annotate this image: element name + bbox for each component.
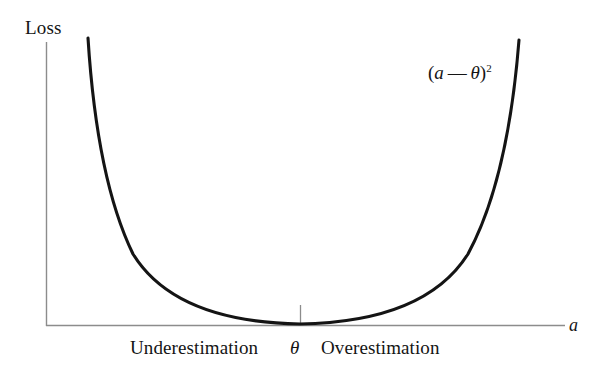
formula-variable-a: a bbox=[434, 62, 444, 83]
x-axis-label: a bbox=[569, 316, 578, 334]
y-axis-label: Loss bbox=[25, 18, 62, 37]
theta-axis-tick-label: θ bbox=[290, 338, 299, 357]
underestimation-region-label: Underestimation bbox=[130, 338, 258, 357]
formula-variable-theta: θ bbox=[470, 62, 479, 83]
curve-formula-annotation: (a — θ)2 bbox=[428, 63, 492, 82]
plot-area bbox=[0, 0, 596, 373]
formula-minus-sign: — bbox=[448, 62, 467, 83]
loss-function-figure: Loss (a — θ)2 a Underestimation θ Overes… bbox=[0, 0, 596, 373]
overestimation-region-label: Overestimation bbox=[321, 338, 440, 357]
formula-exponent: 2 bbox=[486, 62, 492, 74]
